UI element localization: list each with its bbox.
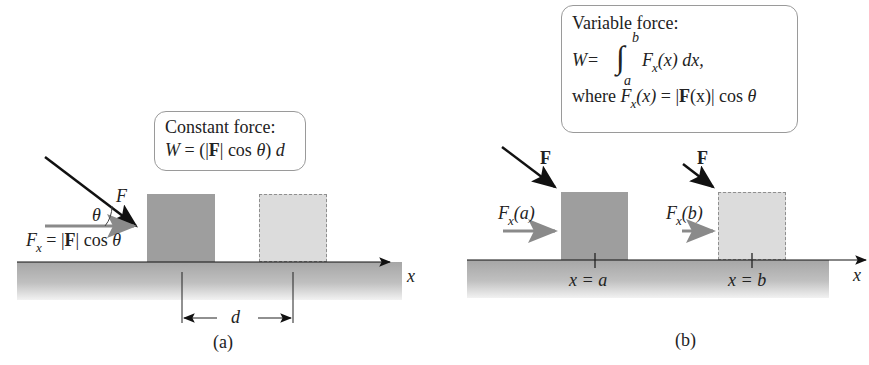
- integral-upper-limit: b: [632, 29, 639, 47]
- fx-at-a-label: Fx(a): [498, 203, 535, 224]
- integral-lower-limit: a: [624, 72, 631, 90]
- force-label-b1: F: [540, 148, 551, 169]
- variable-force-box: Variable force: W = ∫ b a Fx(x) dx, wher…: [561, 5, 798, 133]
- position-a-label: x = a: [569, 270, 607, 291]
- axis-label-b: x: [853, 265, 861, 286]
- position-b-label: x = b: [728, 270, 766, 291]
- variable-force-title: Variable force:: [572, 12, 797, 35]
- caption-b: (b): [675, 330, 696, 351]
- force-label-b2: F: [697, 148, 708, 169]
- fx-at-b-label: Fx(b): [666, 203, 703, 224]
- where-clause: where Fx(x) = |F(x)| cos θ: [572, 85, 797, 108]
- work-integral: W = ∫ b a Fx(x) dx,: [572, 35, 797, 85]
- integral-sign: ∫: [616, 37, 625, 77]
